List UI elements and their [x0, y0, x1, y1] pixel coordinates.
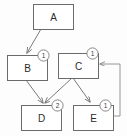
node-a[interactable]: A	[34, 5, 74, 30]
edge-b-to-d	[26, 80, 43, 103]
node-b-badge-label: 1	[42, 52, 46, 59]
edge-c-to-d	[45, 78, 72, 103]
node-c-badge-label: 1	[91, 50, 95, 57]
node-c[interactable]: C 1	[59, 48, 99, 79]
node-b[interactable]: B 1	[8, 50, 50, 81]
node-d-badge-label: 2	[56, 102, 60, 109]
node-e-label: E	[90, 113, 97, 124]
node-c-label: C	[75, 61, 82, 72]
node-e-badge-label: 1	[104, 102, 108, 109]
edge-a-to-b	[27, 29, 41, 53]
node-diagram: A B 1 C 1 D 2 E 1	[0, 0, 127, 136]
node-b-label: B	[24, 63, 31, 74]
node-d-label: D	[38, 113, 45, 124]
edge-c-to-e	[73, 78, 90, 102]
node-e[interactable]: E 1	[74, 100, 114, 131]
node-a-label: A	[50, 12, 57, 23]
diagram-canvas: A B 1 C 1 D 2 E 1	[0, 0, 127, 136]
node-d[interactable]: D 2	[22, 100, 64, 131]
